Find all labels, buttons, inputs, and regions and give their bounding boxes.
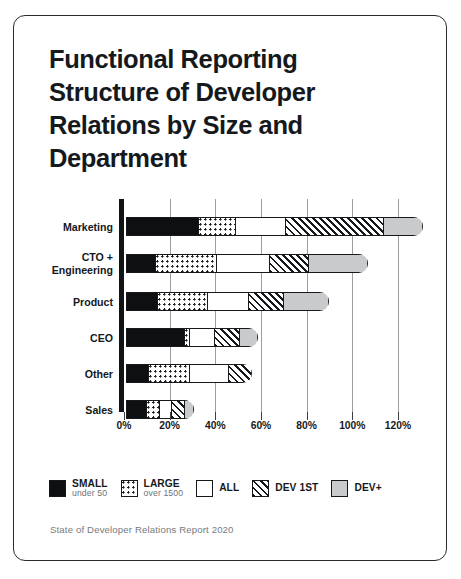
bar-segment-large xyxy=(149,364,190,383)
legend-item-text: SMALLunder 50 xyxy=(72,478,108,498)
bar-segment-dev1st xyxy=(172,400,186,419)
x-axis-tickmark xyxy=(215,412,216,420)
bar-segment-small xyxy=(126,254,156,273)
chart-legend: SMALLunder 50LARGEover 1500ALLDEV 1STDEV… xyxy=(49,471,421,505)
bar-segment-small xyxy=(126,328,185,347)
bar-segment-dev1st xyxy=(270,254,309,273)
bar xyxy=(126,328,258,347)
bar-segment-all xyxy=(190,328,215,347)
y-axis-category-label: CTO +Engineering xyxy=(17,251,113,277)
bar-segment-dev1st xyxy=(229,364,252,383)
x-axis-tick-label: 120% xyxy=(375,420,421,431)
legend-item-text: LARGEover 1500 xyxy=(144,478,184,498)
source-caption: State of Developer Relations Report 2020 xyxy=(50,524,234,535)
bar-segment-devplus xyxy=(240,328,258,347)
y-axis-category-label: CEO xyxy=(17,332,113,345)
y-axis-category-label: Product xyxy=(17,296,113,309)
x-axis-tickmark xyxy=(261,412,262,420)
x-axis-tickmark xyxy=(352,412,353,420)
x-axis-tick-label: 20% xyxy=(147,420,193,431)
gray-swatch xyxy=(331,480,348,497)
x-axis-tickmark xyxy=(307,412,308,420)
bar-segment-devplus xyxy=(284,292,330,311)
x-axis-tick-label: 60% xyxy=(238,420,284,431)
bar-segment-dev1st xyxy=(286,217,384,236)
bar xyxy=(126,254,368,273)
bar-segment-all xyxy=(190,364,229,383)
hatched-swatch xyxy=(252,480,269,497)
bar-segment-small xyxy=(126,364,149,383)
bar-segment-small xyxy=(126,217,199,236)
legend-item-text: DEV+ xyxy=(354,482,381,493)
legend-item-sublabel: over 1500 xyxy=(144,489,184,498)
bar xyxy=(126,292,329,311)
x-axis-tickmark xyxy=(170,412,171,420)
bar-segment-all xyxy=(208,292,249,311)
legend-item-label: ALL xyxy=(219,482,239,493)
bar-segment-small xyxy=(126,400,147,419)
bar-segment-large xyxy=(147,400,161,419)
y-axis-spine xyxy=(119,199,124,412)
dotted-swatch xyxy=(121,480,138,497)
y-axis-category-label: Marketing xyxy=(17,221,113,234)
x-axis-tick-label: 0% xyxy=(101,420,147,431)
bar-segment-large xyxy=(158,292,208,311)
solid-black-swatch xyxy=(49,480,66,497)
bar-segment-large xyxy=(156,254,218,273)
legend-item-devplus[interactable]: DEV+ xyxy=(331,480,381,497)
bar xyxy=(126,217,423,236)
bar-segment-devplus xyxy=(185,400,194,419)
x-axis-tick-label: 80% xyxy=(284,420,330,431)
bar-segment-devplus xyxy=(309,254,368,273)
legend-item-small[interactable]: SMALLunder 50 xyxy=(49,478,108,498)
legend-item-label: DEV 1ST xyxy=(275,482,318,493)
legend-item-text: DEV 1ST xyxy=(275,482,318,493)
y-axis-category-label: Sales xyxy=(17,404,113,417)
bar-segment-dev1st xyxy=(249,292,283,311)
bar xyxy=(126,364,252,383)
legend-item-text: ALL xyxy=(219,482,239,493)
bar-segment-small xyxy=(126,292,158,311)
bar xyxy=(126,400,194,419)
chart-card: Functional Reporting Structure of Develo… xyxy=(13,15,447,561)
bar-segment-all xyxy=(236,217,286,236)
legend-item-all[interactable]: ALL xyxy=(196,480,239,497)
bar-segment-dev1st xyxy=(215,328,240,347)
y-axis-category-label: Other xyxy=(17,368,113,381)
legend-item-sublabel: under 50 xyxy=(72,489,108,498)
white-swatch xyxy=(196,480,213,497)
x-axis-tick-label: 100% xyxy=(329,420,375,431)
bar-segment-large xyxy=(199,217,236,236)
bar-segment-all xyxy=(217,254,270,273)
bar-segment-devplus xyxy=(384,217,423,236)
x-axis-tickmark xyxy=(398,412,399,420)
x-axis-tickmark xyxy=(124,412,125,420)
legend-item-large[interactable]: LARGEover 1500 xyxy=(121,478,184,498)
legend-item-dev1st[interactable]: DEV 1ST xyxy=(252,480,318,497)
legend-item-label: DEV+ xyxy=(354,482,381,493)
x-axis-tick-label: 40% xyxy=(192,420,238,431)
